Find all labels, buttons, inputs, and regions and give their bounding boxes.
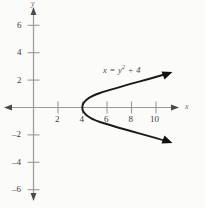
x-axis-arrow-left — [4, 105, 12, 111]
y-tick-label-4: 4 — [17, 48, 22, 57]
curve-equation-head: x = y — [103, 65, 122, 75]
y-tick-label-2: 2 — [17, 76, 22, 85]
x-tick-label-4: 4 — [80, 115, 85, 124]
y-tick-label-minus-2: –2 — [12, 130, 21, 139]
x-tick-label-10: 10 — [150, 115, 159, 124]
x-axis-arrow-right — [171, 105, 179, 111]
parabola-chart-figure: 2 4 6 8 10 6 4 2 –2 –4 –6 x y x = y2 + 4 — [0, 0, 205, 208]
y-axis-label: y — [31, 0, 35, 8]
x-axis-label: x — [185, 103, 189, 111]
curve-equation-tail: + 4 — [125, 65, 140, 75]
curve-arrow-upper — [162, 72, 173, 80]
y-tick-label-minus-4: –4 — [12, 158, 21, 167]
y-axis-arrow-up — [31, 7, 37, 15]
chart-canvas — [0, 0, 205, 208]
y-tick-label-minus-6: –6 — [12, 185, 21, 194]
y-tick-label-6: 6 — [17, 21, 22, 30]
y-axis-arrow-down — [31, 193, 37, 201]
x-tick-label-6: 6 — [104, 115, 109, 124]
curve-arrow-lower — [162, 136, 173, 144]
curve-equation-label: x = y2 + 4 — [103, 63, 141, 75]
x-tick-label-2: 2 — [55, 115, 60, 124]
x-tick-label-8: 8 — [129, 115, 134, 124]
